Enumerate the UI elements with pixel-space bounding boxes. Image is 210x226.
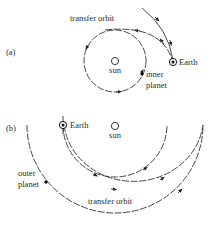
earth-icon-center	[172, 61, 175, 64]
transfer-orbit-label: transfer orbit	[88, 196, 133, 206]
inner-planet-label-line2: planet	[146, 80, 167, 90]
earth-label: Earth	[179, 57, 198, 67]
inner-planet-dot	[140, 72, 143, 75]
outer-planet-label-line2: planet	[18, 179, 39, 189]
orbit-direction-arrow	[160, 178, 163, 180]
outer-planet-label-line1: outer	[18, 168, 36, 178]
sun-icon	[111, 122, 118, 129]
transfer-orbit-arc	[64, 125, 203, 181]
sun-icon	[111, 57, 118, 64]
earth-orbit-arc	[142, 8, 173, 60]
earth-icon-center	[62, 124, 65, 127]
orbit-direction-arrow	[155, 17, 158, 20]
orbit-direction-arrow	[170, 40, 171, 44]
hohmann-transfer-diagram: (a) sun inner planet transfer orbit Eart…	[0, 0, 210, 226]
inner-planet-orbit	[84, 30, 146, 92]
panel-b: (b) sun outer planet transfer orbit Eart…	[6, 116, 203, 213]
orbit-direction-arrow	[93, 174, 96, 176]
sun-label: sun	[109, 65, 122, 75]
inner-planet-label-line1: inner	[146, 69, 164, 79]
orbit-direction-arrow	[178, 190, 181, 193]
transfer-orbit-arc	[105, 29, 172, 59]
panel-a-label: (a)	[6, 47, 16, 57]
transfer-orbit-label: transfer orbit	[70, 13, 115, 23]
panel-b-label: (b)	[6, 123, 16, 133]
sun-label: sun	[109, 130, 122, 140]
earth-label: Earth	[70, 120, 89, 130]
outer-planet-dot	[44, 180, 47, 183]
panel-a: (a) sun inner planet transfer orbit Eart…	[6, 8, 198, 92]
